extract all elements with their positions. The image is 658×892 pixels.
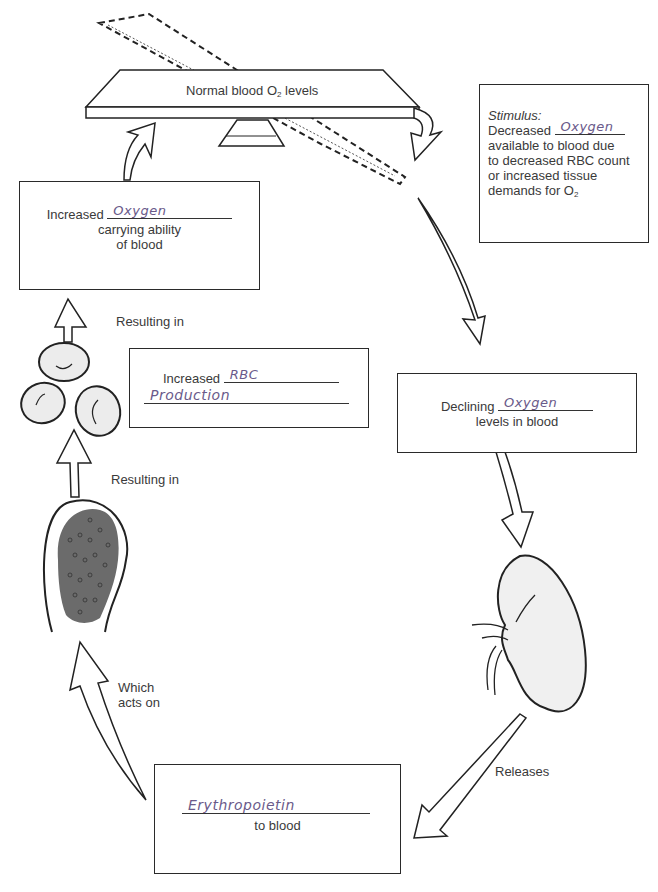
declining-box: Declining Oxygen levels in blood <box>397 373 637 453</box>
declining-answer-blank[interactable]: Oxygen <box>498 410 593 411</box>
balance-label: Normal blood O2 levels <box>186 83 318 102</box>
declining-answer: Oxygen <box>504 395 557 410</box>
arrow-rbc-to-carrying <box>55 299 86 342</box>
epo-answer-blank[interactable]: Erythropoietin <box>182 795 370 814</box>
declining-prefix: Declining <box>441 399 494 414</box>
stimulus-line1: Decreased Oxygen <box>488 123 648 138</box>
epo-answer: Erythropoietin <box>188 797 295 813</box>
arrow-epo-to-bone <box>70 642 146 800</box>
bone-marrow-illustration <box>44 500 127 632</box>
stimulus-decreased: Decreased <box>488 123 551 138</box>
epo-box: Erythropoietin to blood <box>154 764 401 874</box>
acts-on-line1: Which <box>118 680 160 695</box>
arrow-declining-to-kidney <box>496 452 533 547</box>
rbc-line1: Increased RBC <box>163 371 339 386</box>
stimulus-answer-blank[interactable]: Oxygen <box>555 134 625 135</box>
balance-label-suffix: levels <box>282 83 319 98</box>
stimulus-line5: demands for O2 <box>488 183 648 202</box>
carrying-line2: carrying ability <box>20 222 259 237</box>
carrying-answer-blank[interactable]: Oxygen <box>107 218 232 219</box>
rbc-answer-blank-2[interactable]: Production <box>144 385 349 404</box>
carrying-line3: of blood <box>20 237 259 252</box>
releases-label: Releases <box>495 764 549 779</box>
stimulus-answer: Oxygen <box>561 119 614 134</box>
kidney-illustration <box>498 556 586 712</box>
rbc-answer-2: Production <box>150 387 230 403</box>
resulting-in-upper-label: Resulting in <box>116 314 184 329</box>
stimulus-box: Stimulus: Decreased Oxygen available to … <box>479 84 649 243</box>
stimulus-line5-text: demands for O <box>488 183 574 198</box>
subscript: 2 <box>574 190 578 199</box>
fulcrum <box>219 120 284 146</box>
carrying-box: Increased Oxygen carrying ability of blo… <box>19 181 260 290</box>
red-blood-cells <box>15 343 125 441</box>
rbc-answer-1: RBC <box>230 367 259 382</box>
declining-line2: levels in blood <box>398 414 636 429</box>
carrying-line1: Increased Oxygen <box>20 207 259 222</box>
resulting-in-lower-label: Resulting in <box>111 472 179 487</box>
carrying-answer: Oxygen <box>113 203 166 218</box>
arrow-bone-to-rbc <box>57 430 91 497</box>
rbc-prefix: Increased <box>163 371 220 386</box>
declining-line1: Declining Oxygen <box>398 399 636 414</box>
tilt-arrow <box>411 108 441 160</box>
rbc-answer-blank-1[interactable]: RBC <box>224 382 339 383</box>
acts-on-line2: acts on <box>118 695 160 710</box>
stimulus-line3: to decreased RBC count <box>488 153 648 168</box>
stimulus-line4: or increased tissue <box>488 168 648 183</box>
epo-line2: to blood <box>155 818 400 833</box>
carrying-prefix: Increased <box>47 207 104 222</box>
acts-on-label: Which acts on <box>118 680 160 710</box>
rbc-box: Increased RBC Production <box>129 348 369 428</box>
stimulus-line2: available to blood due <box>488 138 648 153</box>
arrow-stimulus-to-declining <box>418 198 485 344</box>
balance-label-text: Normal blood O <box>186 83 277 98</box>
arrow-carrying-to-balance <box>124 123 155 180</box>
